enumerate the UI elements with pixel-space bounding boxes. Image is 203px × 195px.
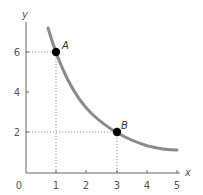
x-tick-label: 3 (114, 180, 120, 191)
origin-label: 0 (16, 180, 22, 191)
x-tick-label: 4 (144, 180, 150, 191)
point-b-label: B (121, 120, 128, 131)
y-axis-label: y (21, 9, 29, 20)
x-tick-label: 1 (53, 180, 59, 191)
y-tick-label: 4 (14, 87, 20, 98)
x-tick-label: 5 (174, 180, 180, 191)
x-tick-label: 2 (83, 180, 89, 191)
x-axis-label: x (184, 167, 191, 178)
point-a (52, 48, 60, 56)
chart: A B 1 2 3 4 5 0 2 4 6 y x (0, 0, 203, 195)
y-tick-label: 2 (14, 127, 20, 138)
point-b (113, 128, 121, 136)
guide-lines (26, 52, 117, 173)
y-tick-label: 6 (14, 47, 20, 58)
point-a-label: A (61, 40, 69, 51)
